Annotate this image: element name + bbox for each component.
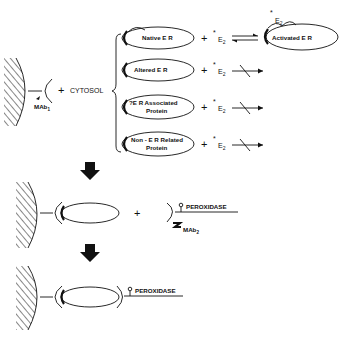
er-associated-label-1: ?E R Associated (129, 99, 178, 106)
estradiol-label: E2 (218, 105, 226, 114)
estradiol-star: * (213, 61, 216, 68)
activated-er-label: Activated E R (272, 34, 312, 41)
peroxidase-label: PEROXIDASE (135, 287, 176, 294)
branch-er-associated-protein: ?E R Associated Protein + * E2 (122, 95, 263, 119)
plus-sign: + (201, 64, 207, 76)
estradiol-star: * (213, 135, 216, 142)
bound-estradiol-label: E2 (275, 17, 283, 26)
estradiol-star: * (213, 29, 216, 36)
plus-sign: + (201, 101, 207, 113)
solid-phase-wall-3 (16, 266, 46, 330)
mab2-label: MAb2 (183, 226, 199, 235)
branch-altered-er: Altered E R + * E2 (122, 59, 263, 81)
estradiol-label: E2 (218, 68, 226, 77)
branch-non-er-related-protein: Non - E R Related Protein + * E2 (122, 132, 263, 156)
estradiol-star: * (270, 9, 273, 16)
cytosol-label: CYTOSOL (70, 87, 103, 94)
altered-er-label: Altered E R (134, 66, 168, 73)
antibody-mab1 (28, 79, 52, 103)
down-arrow-2 (80, 244, 100, 262)
plus-sign: + (201, 32, 207, 44)
non-er-label-1: Non - E R Related (131, 136, 183, 143)
plus-sign: + (201, 138, 207, 150)
diagram: MAb1 + CYTOSOL Native E R + * E2 Activat… (0, 0, 349, 337)
plus-sign: + (58, 84, 64, 96)
solid-phase-wall-2 (16, 182, 46, 248)
plus-sign: + (134, 207, 140, 219)
solid-phase-wall-1 (4, 58, 34, 126)
estradiol-star: * (213, 98, 216, 105)
estradiol-label: E2 (218, 142, 226, 151)
er-associated-label-2: Protein (146, 107, 168, 114)
mab1-label: MAb1 (34, 103, 50, 112)
estradiol-label: E2 (218, 36, 226, 45)
non-er-label-2: Protein (146, 144, 168, 151)
native-er-label: Native E R (142, 34, 173, 41)
branch-native-er: Native E R + * E2 Activated E R * E2 (122, 9, 338, 50)
diagram-canvas: MAb1 + CYTOSOL Native E R + * E2 Activat… (0, 0, 349, 337)
captured-receptor-complex (40, 202, 119, 224)
branch-bracket (112, 34, 121, 152)
down-arrow-1 (80, 162, 100, 180)
peroxidase-label: PEROXIDASE (186, 203, 227, 210)
